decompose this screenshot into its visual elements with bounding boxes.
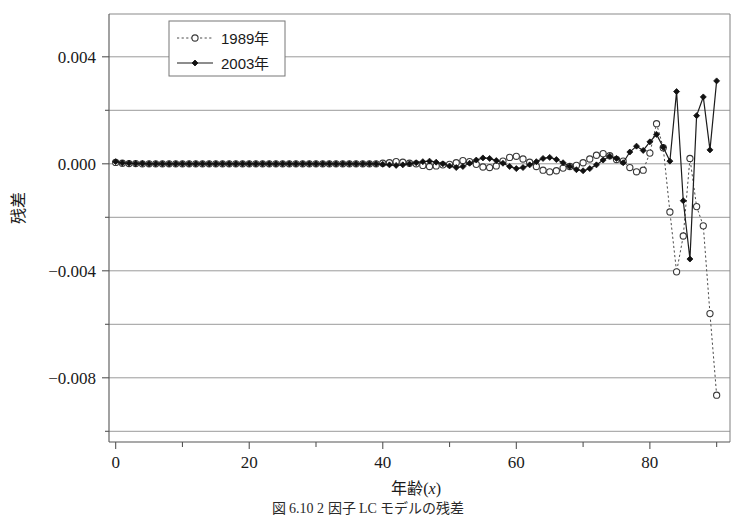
data-point-marker	[667, 209, 673, 215]
data-point-marker	[547, 169, 553, 175]
data-point-marker	[680, 198, 686, 204]
data-point-marker	[694, 113, 700, 119]
data-point-marker	[580, 160, 586, 166]
legend-label: 1989年	[221, 30, 269, 47]
data-point-marker	[600, 151, 606, 157]
y-tick-label: −0.008	[48, 369, 96, 388]
data-point-marker	[540, 167, 546, 173]
data-point-marker	[647, 150, 653, 156]
data-point-marker	[633, 169, 639, 175]
figure-container: 0.0040.000−0.004−0.008020406080年齢(x)残差19…	[0, 0, 736, 516]
data-point-marker	[192, 35, 198, 41]
data-point-marker	[707, 311, 713, 317]
data-point-marker	[714, 392, 720, 398]
data-point-marker	[427, 158, 433, 164]
data-point-marker	[513, 153, 519, 159]
data-point-marker	[627, 164, 633, 170]
data-point-marker	[493, 158, 499, 164]
data-point-marker	[707, 147, 713, 153]
data-point-marker	[580, 168, 586, 174]
residual-line-chart: 0.0040.000−0.004−0.008020406080年齢(x)残差19…	[0, 0, 736, 516]
data-point-marker	[700, 94, 706, 100]
data-point-marker	[587, 166, 593, 172]
x-tick-label: 60	[508, 453, 525, 472]
data-point-marker	[640, 167, 646, 173]
data-point-marker	[680, 233, 686, 239]
data-point-marker	[520, 165, 526, 171]
data-point-marker	[487, 155, 493, 161]
data-point-marker	[553, 157, 559, 163]
data-point-marker	[487, 164, 493, 170]
data-point-marker	[540, 155, 546, 161]
data-point-marker	[480, 155, 486, 161]
y-axis-title: 残差	[10, 192, 27, 224]
data-point-marker	[460, 157, 466, 163]
data-point-marker	[653, 121, 659, 127]
data-point-marker	[460, 163, 466, 169]
data-point-marker	[560, 160, 566, 166]
x-axis-title: 年齢(x)	[391, 480, 441, 498]
data-point-marker	[507, 163, 513, 169]
y-tick-label: 0.000	[58, 155, 96, 174]
data-point-marker	[687, 256, 693, 262]
data-point-marker	[700, 223, 706, 229]
data-point-marker	[513, 166, 519, 172]
data-point-marker	[593, 152, 599, 158]
y-tick-label: −0.004	[48, 262, 96, 281]
data-point-marker	[553, 168, 559, 174]
data-point-marker	[694, 204, 700, 210]
figure-caption: 図 6.10 2 因子 LC モデルの残差	[272, 500, 465, 516]
y-tick-label: 0.004	[58, 48, 97, 67]
data-point-marker	[714, 78, 720, 84]
series-line	[116, 81, 717, 259]
x-tick-label: 20	[241, 453, 258, 472]
x-tick-label: 40	[374, 453, 391, 472]
x-tick-label: 0	[111, 453, 120, 472]
data-point-marker	[674, 89, 680, 95]
data-point-marker	[587, 156, 593, 162]
data-point-marker	[687, 155, 693, 161]
legend-label: 2003年	[221, 55, 269, 72]
data-point-marker	[507, 154, 513, 160]
data-point-marker	[520, 156, 526, 162]
data-point-marker	[667, 158, 673, 164]
data-point-marker	[480, 164, 486, 170]
x-tick-label: 80	[641, 453, 658, 472]
data-point-marker	[673, 269, 679, 275]
data-point-marker	[547, 154, 553, 160]
